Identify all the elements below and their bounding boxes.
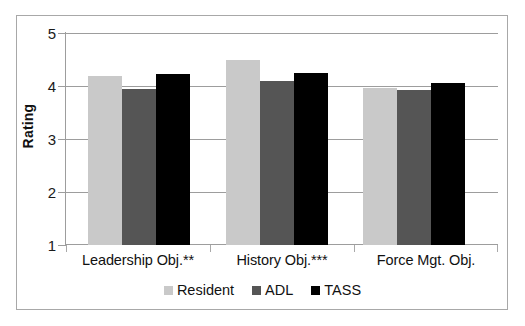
category-tick-1 bbox=[210, 245, 211, 252]
bar-adl-leadership bbox=[122, 89, 156, 245]
bar-tass-force-mgt bbox=[431, 83, 465, 245]
legend-label-tass: TASS bbox=[324, 283, 361, 298]
y-tick-mark-2 bbox=[58, 192, 66, 193]
bar-resident-leadership bbox=[88, 76, 122, 245]
category-label-history: History Obj.*** bbox=[210, 252, 354, 268]
legend-item-tass: TASS bbox=[311, 283, 361, 298]
bar-group-history bbox=[226, 33, 336, 245]
legend-swatch-icon-tass bbox=[311, 286, 320, 295]
bar-tass-history bbox=[294, 73, 328, 245]
y-tick-mark-3 bbox=[58, 139, 66, 140]
y-tick-label-3: 3 bbox=[16, 132, 56, 147]
category-label-leadership: Leadership Obj.** bbox=[66, 252, 210, 268]
bar-group-force-mgt bbox=[363, 33, 473, 245]
bar-group-leadership bbox=[88, 33, 198, 245]
bar-chart: Rating 5 4 3 2 1 bbox=[0, 0, 525, 326]
category-tick-0 bbox=[66, 245, 67, 252]
legend-swatch-icon-resident bbox=[164, 286, 173, 295]
plot-area bbox=[66, 33, 498, 245]
legend-item-adl: ADL bbox=[252, 283, 293, 298]
y-tick-mark-1 bbox=[58, 245, 66, 246]
category-label-force-mgt: Force Mgt. Obj. bbox=[354, 252, 498, 268]
category-tick-2 bbox=[354, 245, 355, 252]
bar-adl-history bbox=[260, 81, 294, 245]
bar-resident-history bbox=[226, 60, 260, 246]
legend-item-resident: Resident bbox=[164, 283, 234, 298]
bar-resident-force-mgt bbox=[363, 88, 397, 245]
legend-swatch-icon-adl bbox=[252, 286, 261, 295]
category-tick-3 bbox=[497, 245, 498, 252]
y-tick-label-2: 2 bbox=[16, 185, 56, 200]
y-tick-label-5: 5 bbox=[16, 26, 56, 41]
y-axis-labels: 5 4 3 2 1 bbox=[8, 0, 56, 326]
y-tick-label-4: 4 bbox=[16, 79, 56, 94]
chart-legend: Resident ADL TASS bbox=[0, 283, 525, 298]
bar-tass-leadership bbox=[156, 74, 190, 245]
legend-label-adl: ADL bbox=[265, 283, 293, 298]
y-tick-mark-5 bbox=[58, 33, 66, 34]
y-tick-mark-4 bbox=[58, 86, 66, 87]
legend-label-resident: Resident bbox=[177, 283, 234, 298]
bar-adl-force-mgt bbox=[397, 90, 431, 245]
y-tick-label-1: 1 bbox=[16, 238, 56, 253]
